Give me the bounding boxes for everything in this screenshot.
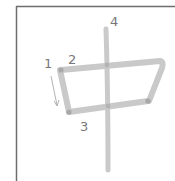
stroke-label-1: 1 bbox=[44, 56, 52, 71]
stroke-1 bbox=[60, 70, 69, 112]
stroke-2 bbox=[61, 61, 163, 101]
stroke-4 bbox=[106, 29, 108, 170]
stroke-label-2: 2 bbox=[68, 52, 76, 67]
direction-arrow-icon bbox=[51, 76, 59, 106]
stroke-order-diagram: 1 2 3 4 bbox=[0, 0, 175, 181]
stroke-label-4: 4 bbox=[110, 14, 118, 29]
stroke-label-3: 3 bbox=[80, 119, 88, 134]
